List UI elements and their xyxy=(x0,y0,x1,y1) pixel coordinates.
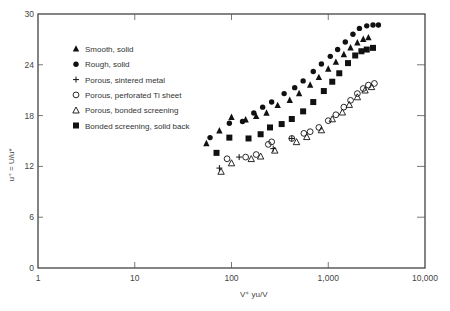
data-point xyxy=(370,45,376,51)
data-point xyxy=(226,135,232,141)
legend-item: Rough, solid xyxy=(73,60,129,69)
data-point xyxy=(329,79,335,85)
data-point xyxy=(258,131,264,137)
data-point xyxy=(287,97,293,103)
filled-triangle-icon xyxy=(73,45,79,51)
data-point xyxy=(300,78,305,83)
data-point xyxy=(336,70,342,76)
filled-square-icon xyxy=(73,123,79,129)
data-point xyxy=(364,23,369,28)
y-tick-label: 12 xyxy=(25,161,35,171)
y-tick-label: 6 xyxy=(29,212,34,222)
x-tick-label: 100 xyxy=(224,273,238,283)
legend-item: Bonded screening, solid back xyxy=(73,122,191,131)
data-point xyxy=(263,109,269,115)
data-point xyxy=(289,116,295,122)
data-point xyxy=(360,36,366,42)
y-tick-label: 30 xyxy=(25,9,35,19)
legend-label: Smooth, solid xyxy=(85,45,133,54)
data-point xyxy=(216,165,222,171)
legend: Smooth, solidRough, solidPorous, sintere… xyxy=(73,45,191,131)
data-point xyxy=(251,110,256,115)
data-point xyxy=(325,65,331,71)
data-point xyxy=(216,127,222,133)
data-point xyxy=(292,85,297,90)
data-point xyxy=(333,112,339,118)
data-point xyxy=(260,104,265,109)
x-tick-label: 1 xyxy=(36,273,41,283)
data-point xyxy=(345,60,351,66)
data-point xyxy=(370,22,375,27)
data-point xyxy=(352,52,358,58)
legend-item: Porous, perforated Ti sheet xyxy=(73,91,182,100)
data-point xyxy=(224,156,230,162)
data-point xyxy=(203,140,209,146)
data-point xyxy=(243,154,249,160)
legend-label: Bonded screening, solid back xyxy=(85,122,191,131)
open-circle-icon xyxy=(73,92,79,98)
legend-label: Porous, bonded screening xyxy=(85,106,178,115)
data-point xyxy=(218,168,224,174)
data-point xyxy=(253,152,259,158)
data-point xyxy=(333,58,339,64)
data-point xyxy=(316,74,322,80)
data-point xyxy=(341,51,347,57)
data-point xyxy=(364,47,370,53)
x-axis-title: V⁺ yu/V xyxy=(240,290,268,299)
series-smooth-solid xyxy=(203,34,371,146)
open-triangle-icon xyxy=(73,107,79,113)
plus-icon xyxy=(73,77,79,83)
data-point xyxy=(358,48,364,54)
y-axis-title: u⁺ = U/u* xyxy=(7,148,16,181)
data-point xyxy=(343,39,348,44)
data-points xyxy=(203,22,381,174)
data-point xyxy=(350,32,355,37)
data-point xyxy=(347,44,353,50)
data-point xyxy=(227,121,232,126)
series-rough-solid xyxy=(207,22,381,140)
data-point xyxy=(321,88,327,94)
data-point xyxy=(307,129,313,135)
y-tick-label: 0 xyxy=(29,263,34,273)
data-point xyxy=(307,81,313,87)
data-point xyxy=(274,102,280,108)
legend-label: Rough, solid xyxy=(85,60,129,69)
legend-label: Porous, sintered metal xyxy=(85,76,165,85)
data-point xyxy=(328,54,333,59)
data-point xyxy=(319,61,324,66)
data-point xyxy=(310,99,316,105)
legend-item: Porous, sintered metal xyxy=(73,76,165,85)
data-point xyxy=(357,26,362,31)
filled-circle-icon xyxy=(73,62,78,67)
data-point xyxy=(236,154,242,160)
data-point xyxy=(318,127,324,133)
log-velocity-chart: 0612182430 1101001,00010,000 V⁺ yu/V u⁺ … xyxy=(0,0,450,311)
x-axis: 1101001,00010,000 xyxy=(36,14,439,283)
x-tick-label: 10 xyxy=(130,273,140,283)
data-point xyxy=(376,22,381,27)
y-tick-label: 24 xyxy=(25,60,35,70)
legend-label: Porous, perforated Ti sheet xyxy=(85,91,182,100)
x-tick-label: 1,000 xyxy=(318,273,340,283)
data-point xyxy=(311,69,316,74)
data-point xyxy=(207,135,212,140)
data-point xyxy=(279,121,285,127)
data-point xyxy=(214,150,220,156)
data-point xyxy=(267,124,273,130)
data-point xyxy=(281,91,286,96)
data-point xyxy=(346,101,352,107)
data-point xyxy=(272,147,278,153)
data-point xyxy=(354,39,360,45)
data-point xyxy=(240,119,245,124)
legend-item: Porous, bonded screening xyxy=(73,106,179,115)
data-point xyxy=(296,90,302,96)
data-point xyxy=(365,34,371,40)
data-point xyxy=(335,47,340,52)
data-point xyxy=(269,99,274,104)
y-tick-label: 18 xyxy=(25,111,35,121)
legend-item: Smooth, solid xyxy=(73,45,134,54)
data-point xyxy=(228,113,234,119)
data-point xyxy=(246,135,252,141)
x-tick-label: 10,000 xyxy=(412,273,438,283)
data-point xyxy=(300,108,306,114)
